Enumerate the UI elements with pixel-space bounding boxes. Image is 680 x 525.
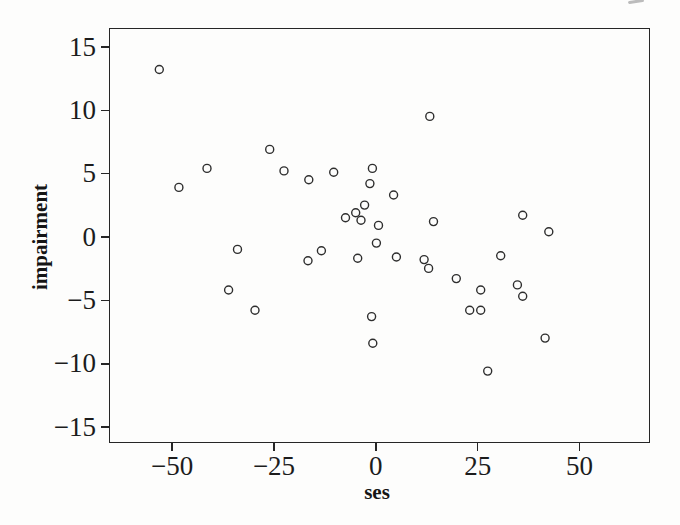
x-axis-title: ses xyxy=(287,481,467,504)
data-point xyxy=(372,239,380,247)
y-tick-label: 5 xyxy=(20,160,96,187)
data-point xyxy=(484,367,492,375)
data-point xyxy=(357,216,365,224)
data-point xyxy=(375,221,383,229)
y-tick-label: −15 xyxy=(20,414,96,441)
x-tick-label: 50 xyxy=(535,453,625,480)
data-point xyxy=(452,275,460,283)
y-tick-mark xyxy=(101,363,109,365)
scan-artifact xyxy=(628,0,644,4)
x-tick-label: 0 xyxy=(331,453,421,480)
figure-canvas: impairment −50−2502550 151050−5−10−15 se… xyxy=(0,0,680,525)
data-point xyxy=(519,211,527,219)
data-point xyxy=(330,168,338,176)
data-point xyxy=(251,306,259,314)
scatter-points-svg xyxy=(110,29,649,442)
y-tick-label: −10 xyxy=(20,350,96,377)
y-tick-mark xyxy=(101,46,109,48)
plot-area xyxy=(109,28,650,443)
data-point xyxy=(304,257,312,265)
y-tick-mark xyxy=(101,110,109,112)
data-point xyxy=(352,209,360,217)
y-tick-mark xyxy=(101,236,109,238)
x-tick-mark xyxy=(375,443,377,451)
data-point xyxy=(266,145,274,153)
data-point xyxy=(545,228,553,236)
data-point xyxy=(354,254,362,262)
x-tick-mark xyxy=(477,443,479,451)
data-point xyxy=(519,292,527,300)
data-point xyxy=(430,218,438,226)
y-tick-label: −5 xyxy=(20,287,96,314)
data-point xyxy=(425,264,433,272)
y-tick-mark xyxy=(101,300,109,302)
y-tick-label: 10 xyxy=(20,97,96,124)
data-point xyxy=(497,252,505,260)
data-point xyxy=(477,306,485,314)
data-point xyxy=(280,167,288,175)
data-point xyxy=(513,281,521,289)
data-point xyxy=(225,286,233,294)
data-point xyxy=(342,214,350,222)
data-point xyxy=(368,164,376,172)
data-point xyxy=(317,247,325,255)
x-tick-label: −25 xyxy=(229,453,319,480)
x-tick-label: 25 xyxy=(433,453,523,480)
data-point xyxy=(305,176,313,184)
y-tick-mark xyxy=(101,173,109,175)
data-point xyxy=(175,183,183,191)
x-tick-label: −50 xyxy=(127,453,217,480)
data-point xyxy=(369,339,377,347)
data-point xyxy=(366,180,374,188)
data-point xyxy=(368,313,376,321)
data-point xyxy=(361,201,369,209)
data-point xyxy=(203,164,211,172)
x-tick-mark xyxy=(273,443,275,451)
y-tick-label: 0 xyxy=(20,224,96,251)
x-tick-mark xyxy=(171,443,173,451)
data-point xyxy=(477,286,485,294)
data-point xyxy=(426,112,434,120)
data-point xyxy=(420,256,428,264)
data-point xyxy=(155,66,163,74)
y-tick-mark xyxy=(101,426,109,428)
data-point xyxy=(390,191,398,199)
data-point xyxy=(234,245,242,253)
data-point xyxy=(392,253,400,261)
x-tick-mark xyxy=(579,443,581,451)
data-point xyxy=(466,306,474,314)
y-tick-label: 15 xyxy=(20,34,96,61)
data-point xyxy=(541,334,549,342)
